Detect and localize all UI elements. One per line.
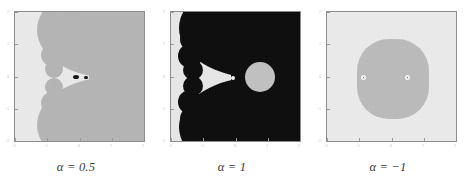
xtick-3-4 bbox=[456, 138, 457, 142]
yticklabel-1-4: -2 bbox=[6, 139, 10, 143]
yticklabel-3-2: 0 bbox=[319, 75, 321, 79]
marker-white-dot-right-3 bbox=[405, 75, 410, 80]
marker-white-dot-cusp-2 bbox=[231, 76, 235, 80]
xtick-1-4 bbox=[144, 138, 145, 142]
yticklabel-3-0: 2 bbox=[319, 10, 321, 14]
xtick-2-2 bbox=[236, 138, 237, 142]
xticklabel-1-0: -2 bbox=[12, 144, 16, 148]
interior-gray-disk-2 bbox=[245, 62, 275, 92]
ytick-1-1 bbox=[14, 44, 18, 45]
xtick-3-1 bbox=[359, 138, 360, 142]
xtick-2-4 bbox=[300, 138, 301, 142]
ytick-2-2 bbox=[170, 77, 174, 78]
xticklabel-2-4: 2 bbox=[298, 144, 300, 148]
ytick-3-0 bbox=[326, 12, 330, 13]
ytick-1-4 bbox=[14, 141, 18, 142]
ytick-2-3 bbox=[170, 109, 174, 110]
panel-caption-2: α = 1 bbox=[156, 160, 308, 175]
plot-area-3 bbox=[326, 11, 457, 142]
ytick-3-3 bbox=[326, 109, 330, 110]
xtick-1-1 bbox=[47, 138, 48, 142]
marker-white-dot-left-3 bbox=[361, 75, 366, 80]
plot-inner-3 bbox=[327, 12, 456, 141]
plot-area-2 bbox=[170, 11, 301, 142]
xtick-2-3 bbox=[268, 138, 269, 142]
plot-area-1 bbox=[14, 11, 145, 142]
yticklabel-2-2: 0 bbox=[163, 75, 165, 79]
ytick-2-0 bbox=[170, 12, 174, 13]
panel-alpha-0.5: -2 -1 0 1 2 2 1 0 -1 -2 α = 0.5 bbox=[0, 0, 152, 186]
panel-caption-1: α = 0.5 bbox=[0, 160, 152, 175]
xtick-2-1 bbox=[203, 138, 204, 142]
panel-alpha-minus-1: -2 -1 0 1 2 2 1 0 -1 -2 α = −1 bbox=[312, 0, 464, 186]
yticklabel-2-0: 2 bbox=[163, 10, 165, 14]
plot-inner-2 bbox=[171, 12, 300, 141]
panel-alpha-1: -2 -1 0 1 2 2 1 0 -1 -2 α = 1 bbox=[156, 0, 308, 186]
ytick-3-2 bbox=[326, 77, 330, 78]
xticklabel-3-3: 1 bbox=[422, 144, 424, 148]
yticklabel-1-2: 0 bbox=[7, 75, 9, 79]
xticklabel-2-2: 0 bbox=[234, 144, 236, 148]
xtick-3-0 bbox=[327, 138, 328, 142]
plot-inner-1 bbox=[15, 12, 144, 141]
ytick-1-2 bbox=[14, 77, 18, 78]
ytick-2-1 bbox=[170, 44, 174, 45]
xticklabel-3-0: -2 bbox=[324, 144, 328, 148]
yticklabel-1-0: 2 bbox=[7, 10, 9, 14]
xticklabel-1-4: 2 bbox=[142, 144, 144, 148]
xticklabel-3-4: 2 bbox=[454, 144, 456, 148]
xticklabel-1-3: 1 bbox=[110, 144, 112, 148]
xticklabel-2-1: -1 bbox=[200, 144, 204, 148]
ytick-2-4 bbox=[170, 141, 174, 142]
marker-black-dot-right-1 bbox=[84, 76, 88, 80]
yticklabel-3-4: -2 bbox=[318, 139, 322, 143]
xticklabel-2-3: 1 bbox=[266, 144, 268, 148]
yticklabel-2-3: -1 bbox=[162, 107, 166, 111]
xtick-1-0 bbox=[15, 138, 16, 142]
ytick-3-1 bbox=[326, 44, 330, 45]
xticklabel-1-1: -1 bbox=[44, 144, 48, 148]
yticklabel-1-1: 1 bbox=[7, 42, 9, 46]
scallop-bump-1d bbox=[45, 60, 63, 78]
marker-black-dot-left-1 bbox=[73, 75, 79, 79]
ytick-1-3 bbox=[14, 109, 18, 110]
xticklabel-2-0: -2 bbox=[168, 144, 172, 148]
yticklabel-2-4: -2 bbox=[162, 139, 166, 143]
panel-caption-3: α = −1 bbox=[312, 160, 464, 175]
yticklabel-3-1: 1 bbox=[319, 42, 321, 46]
xticklabel-3-1: -1 bbox=[356, 144, 360, 148]
xtick-3-2 bbox=[392, 138, 393, 142]
ytick-3-4 bbox=[326, 141, 330, 142]
yticklabel-3-3: -1 bbox=[318, 107, 322, 111]
figure-container: -2 -1 0 1 2 2 1 0 -1 -2 α = 0.5 bbox=[0, 0, 464, 186]
xticklabel-3-2: 0 bbox=[390, 144, 392, 148]
central-gray-blob-3 bbox=[357, 39, 429, 119]
yticklabel-2-1: 1 bbox=[163, 42, 165, 46]
xticklabel-1-2: 0 bbox=[78, 144, 80, 148]
ytick-1-0 bbox=[14, 12, 18, 13]
xtick-1-3 bbox=[112, 138, 113, 142]
xtick-2-0 bbox=[171, 138, 172, 142]
yticklabel-1-3: -1 bbox=[6, 107, 10, 111]
xtick-3-3 bbox=[424, 138, 425, 142]
xtick-1-2 bbox=[80, 138, 81, 142]
